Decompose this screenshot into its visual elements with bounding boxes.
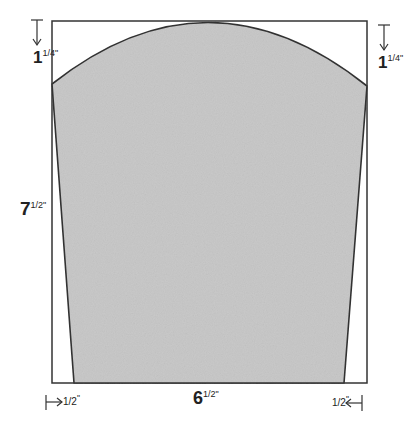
bottom-right-inset-label: 1/2" <box>332 394 349 408</box>
bottom-left-dimension-arrow <box>46 395 62 410</box>
top-right-dimension-label: 11/4" <box>378 53 403 73</box>
width-dimension-label: 61/2" <box>193 388 219 409</box>
shaded-pattern-shape <box>52 22 367 383</box>
pattern-diagram <box>0 0 411 434</box>
height-dimension-label: 71/2" <box>20 198 46 220</box>
bottom-left-inset-label: 1/2" <box>63 393 80 407</box>
top-left-dimension-label: 11/4" <box>33 48 58 68</box>
top-right-dimension-arrow <box>378 25 390 50</box>
top-left-dimension-arrow <box>31 20 43 45</box>
